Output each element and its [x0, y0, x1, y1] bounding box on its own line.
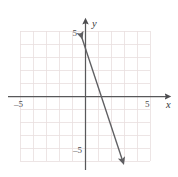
y-axis-label: y — [91, 18, 97, 29]
y-tick-label-positive-five: 5 — [73, 28, 78, 38]
y-tick-label-negative-five: –5 — [72, 145, 83, 155]
x-axis-label: x — [165, 99, 171, 110]
graph-figure: y x 5 –5 –5 5 — [0, 0, 178, 177]
x-tick-label-positive-five: 5 — [145, 99, 150, 109]
coordinate-plane-svg: y x 5 –5 –5 5 — [0, 0, 178, 177]
x-tick-label-negative-five: –5 — [13, 99, 24, 109]
